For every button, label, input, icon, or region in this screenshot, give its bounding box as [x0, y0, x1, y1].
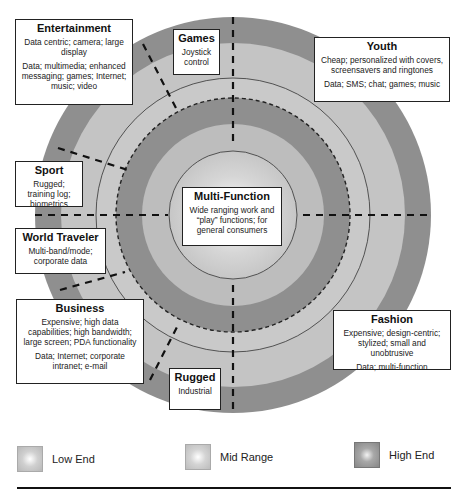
segment-description: Expensive; design-centric; stylized; sma… [337, 328, 447, 358]
segment-world-traveler: World Traveler Multi-band/mode; corporat… [15, 228, 106, 274]
segment-description: Rugged; training log; biometrics [19, 179, 79, 209]
segment-title: Sport [19, 164, 79, 177]
segment-title: Fashion [337, 313, 447, 326]
legend-item-high-end: High End [354, 442, 434, 468]
segment-title: World Traveler [19, 231, 102, 244]
segment-business: Business Expensive; high data capabiliti… [16, 299, 144, 384]
segment-description: Industrial [173, 386, 217, 396]
segment-services: Data; Internet; corporate intranet; e-ma… [20, 351, 140, 371]
segment-games: Games Joystick control [173, 29, 220, 75]
legend-item-mid-range: Mid Range [185, 444, 273, 470]
segment-sport: Sport Rugged; training log; biometrics [15, 161, 83, 207]
mid-range-swatch-icon [185, 444, 211, 470]
segment-fashion: Fashion Expensive; design-centric; styli… [333, 310, 451, 370]
legend-label: Mid Range [220, 451, 273, 463]
segment-description: Cheap; personalized with covers, screens… [318, 55, 446, 75]
segment-description: Multi-band/mode; corporate data [19, 246, 102, 266]
segment-description: Joystick control [177, 47, 216, 67]
segment-title: Entertainment [19, 22, 129, 35]
low-end-swatch-icon [17, 446, 43, 472]
segment-title: Business [20, 302, 140, 315]
segment-multi-function: Multi-Function Wide ranging work and “pl… [182, 187, 282, 246]
high-end-swatch-icon [354, 442, 380, 468]
segment-services: Data; multimedia; enhanced messaging; ga… [19, 61, 129, 91]
legend-label: High End [389, 449, 434, 461]
legend-item-low-end: Low End [17, 446, 95, 472]
segment-title: Rugged [173, 371, 217, 384]
segment-description: Data centric; camera; large display [19, 37, 129, 57]
segment-title: Youth [318, 40, 446, 53]
segment-entertainment: Entertainment Data centric; camera; larg… [15, 19, 133, 105]
legend-label: Low End [52, 453, 95, 465]
segment-title: Multi-Function [186, 190, 278, 203]
segment-services: Data; multi-function [337, 362, 447, 372]
segment-youth: Youth Cheap; personalized with covers, s… [314, 37, 450, 102]
segment-rugged: Rugged Industrial [169, 368, 221, 410]
segment-description: Wide ranging work and “play” functions; … [186, 205, 278, 235]
segment-services: Data; SMS; chat; games; music [318, 79, 446, 89]
segment-description: Expensive; high data capabilities; high … [20, 317, 140, 347]
bottom-rule-divider [17, 487, 451, 489]
segment-title: Games [177, 32, 216, 45]
